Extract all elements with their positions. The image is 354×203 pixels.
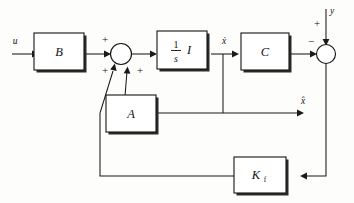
wire-y-to-right-sum	[323, 9, 330, 46]
integrator-matrix-label: I	[186, 43, 192, 57]
wire-right-sum-to-Kf	[300, 63, 326, 179]
signal-label-u: u	[13, 36, 18, 46]
sign-left-sum-bottom-left: +	[102, 64, 108, 76]
block-Kf-label: K	[251, 168, 261, 182]
sign-right-sum-minus: −	[308, 35, 314, 47]
signal-label-xdot: ẋ	[221, 36, 227, 46]
wire-xhat-bus-right	[223, 110, 304, 117]
block-C[interactable]: C	[241, 33, 292, 73]
wire-C-to-right-sum	[291, 51, 317, 58]
block-C-label: C	[261, 45, 270, 59]
block-diagram-canvas: B 1 s I C A K f	[0, 0, 354, 203]
wire-integrator-to-C	[211, 51, 239, 58]
sign-left-sum-bottom-right: +	[137, 64, 143, 76]
signal-label-y: y	[329, 6, 335, 16]
block-B[interactable]: B	[34, 33, 87, 73]
summing-junction-left[interactable]	[111, 44, 132, 65]
sign-right-sum-plus: +	[314, 17, 320, 29]
wire-sum-to-integrator	[131, 51, 157, 58]
sign-left-sum-top-left: +	[102, 33, 108, 45]
summing-junction-right[interactable]	[317, 45, 336, 64]
integrator-denominator: s	[174, 53, 178, 64]
block-A-label: A	[126, 107, 135, 121]
block-A[interactable]: A	[106, 95, 159, 135]
integrator-numerator: 1	[174, 39, 179, 50]
block-Kf[interactable]: K f	[234, 157, 289, 196]
wire-B-to-sum	[86, 51, 111, 58]
block-B-label: B	[55, 45, 63, 59]
signal-label-xhat: x̂	[300, 96, 306, 106]
block-integrator[interactable]: 1 s I	[157, 31, 210, 72]
